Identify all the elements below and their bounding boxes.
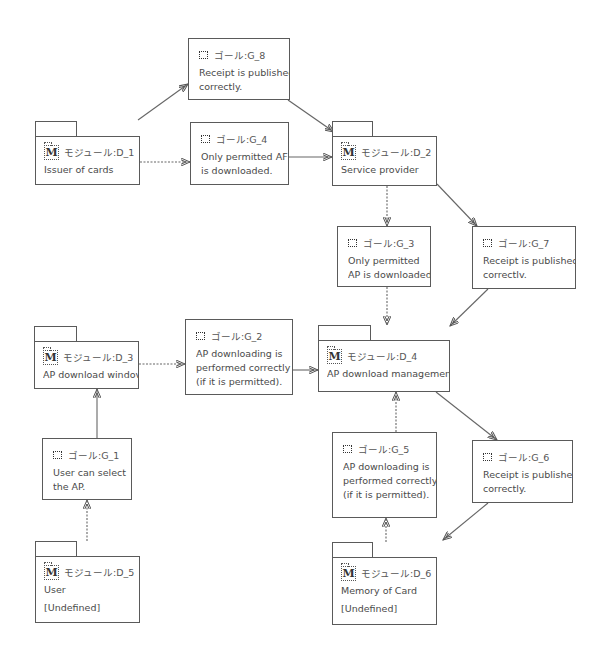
module-text: Memory of Card (341, 584, 436, 598)
goal-text-line: Receipt is publishec (483, 254, 575, 268)
module-icon: M (327, 349, 342, 364)
goal-g2[interactable]: ゴール:G_2 AP downloading is performed corr… (185, 319, 293, 395)
module-tab (35, 121, 77, 137)
goal-label: ゴール:G_1 (68, 448, 119, 462)
module-icon: M (341, 145, 356, 160)
edge-g8-d2 (288, 100, 334, 132)
goal-g5[interactable]: ゴール:G_5 AP downloading is performed corr… (332, 432, 437, 518)
goal-text-line: is downloaded. (201, 164, 288, 178)
module-label: モジュール:D_1 (64, 145, 134, 159)
goal-text-line: Receipt is publishec (483, 468, 572, 482)
module-tab (34, 326, 77, 342)
module-tab (318, 325, 371, 341)
module-d1[interactable]: Mモジュール:D_1 Issuer of cards (35, 136, 140, 185)
module-text: User (44, 583, 139, 597)
goal-text-line: (if it is permitted). (196, 375, 292, 389)
goal-label: ゴール:G_8 (214, 48, 265, 62)
module-label: モジュール:D_2 (361, 145, 431, 159)
module-status: [Undefined] (341, 602, 436, 616)
goal-text-line: correctly. (483, 482, 572, 496)
edge-g6-d6 (443, 503, 488, 540)
module-icon: M (341, 566, 356, 581)
goal-text-line: AP downloading is (343, 460, 436, 474)
goal-g1[interactable]: ゴール:G_1 User can select the AP. (42, 438, 132, 500)
goal-text-line: correctlv. (483, 268, 575, 282)
goal-text-line: (if it is permitted). (343, 488, 436, 502)
module-d5[interactable]: Mモジュール:D_5 User [Undefined] (35, 556, 140, 623)
edge-d1-g8 (138, 84, 188, 120)
goal-text-line: Only permitted AF (201, 150, 288, 164)
module-text: Service provider (341, 163, 436, 177)
goal-icon (483, 239, 492, 247)
goal-text-line: Receipt is publishec (199, 66, 289, 80)
goal-text-line: correctly. (199, 80, 289, 94)
goal-module-diagram: ゴール:G_8 Receipt is publishec correctly. … (0, 0, 606, 664)
goal-icon (483, 453, 492, 461)
module-text: Issuer of cards (44, 163, 139, 177)
module-label: モジュール:D_3 (63, 350, 133, 364)
goal-icon (196, 332, 205, 340)
module-tab (332, 121, 373, 137)
goal-text-line: performed correctly (343, 474, 436, 488)
module-icon: M (43, 350, 58, 365)
module-text: AP download windov (43, 368, 138, 382)
module-label: モジュール:D_6 (361, 566, 431, 580)
module-tab (35, 541, 77, 557)
module-label: モジュール:D_5 (64, 565, 134, 579)
goal-icon (343, 445, 352, 453)
goal-g4[interactable]: ゴール:G_4 Only permitted AF is downloaded. (190, 122, 289, 185)
module-icon: M (44, 565, 59, 580)
module-text: AP download managemen (327, 367, 449, 381)
goal-label: ゴール:G_6 (498, 450, 549, 464)
goal-icon (53, 451, 62, 459)
module-tab (332, 542, 373, 558)
goal-label: ゴール:G_5 (358, 442, 409, 456)
edge-d4-g6 (436, 392, 497, 440)
module-label: モジュール:D_4 (347, 349, 417, 363)
goal-icon (199, 51, 208, 59)
goal-label: ゴール:G_3 (363, 236, 414, 250)
goal-icon (201, 135, 210, 143)
edge-d2-g7 (437, 184, 477, 226)
goal-g8[interactable]: ゴール:G_8 Receipt is publishec correctly. (188, 38, 290, 100)
goal-text-line: performed correctly (196, 361, 292, 375)
edge-g7-d4 (450, 289, 488, 326)
goal-g6[interactable]: ゴール:G_6 Receipt is publishec correctly. (472, 440, 573, 503)
goal-text-line: the AP. (53, 480, 131, 494)
goal-label: ゴール:G_7 (498, 236, 549, 250)
module-d4[interactable]: Mモジュール:D_4 AP download managemen (318, 340, 450, 392)
module-status: [Undefined] (44, 601, 139, 615)
goal-text-line: AP downloading is (196, 347, 292, 361)
goal-icon (348, 239, 357, 247)
goal-g7[interactable]: ゴール:G_7 Receipt is publishec correctlv. (472, 226, 576, 289)
goal-g3[interactable]: ゴール:G_3 Only permitted AP is downloaded (337, 226, 431, 287)
goal-label: ゴール:G_2 (211, 329, 262, 343)
goal-text-line: AP is downloaded (348, 268, 430, 282)
goal-label: ゴール:G_4 (216, 132, 267, 146)
module-d2[interactable]: Mモジュール:D_2 Service provider (332, 136, 437, 186)
goal-text-line: User can select (53, 466, 131, 480)
module-d3[interactable]: Mモジュール:D_3 AP download windov (34, 341, 139, 389)
module-icon: M (44, 145, 59, 160)
goal-text-line: Only permitted (348, 254, 430, 268)
module-d6[interactable]: Mモジュール:D_6 Memory of Card [Undefined] (332, 557, 437, 625)
